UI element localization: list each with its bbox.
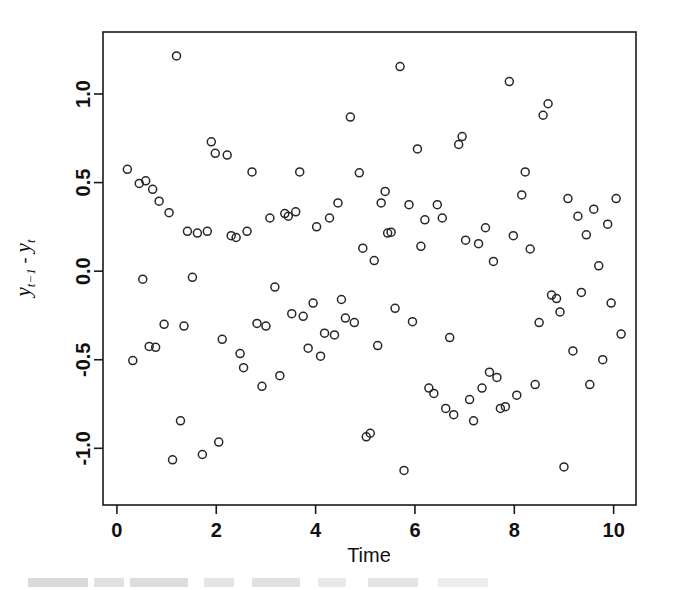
y-axis-title: yt−1-yt	[11, 239, 38, 299]
y-tick-label: -1.0	[72, 431, 94, 465]
data-point	[227, 232, 235, 240]
data-point	[544, 100, 552, 108]
data-point	[359, 244, 367, 252]
data-point	[374, 342, 382, 350]
y-tick-label: 0.5	[72, 169, 94, 197]
x-tick-label: 4	[310, 519, 322, 541]
data-point	[421, 216, 429, 224]
data-point	[317, 352, 325, 360]
y-tick-label: 1.0	[72, 80, 94, 108]
data-point	[405, 201, 413, 209]
data-point	[326, 214, 334, 222]
data-point-group	[123, 52, 625, 475]
data-point	[569, 347, 577, 355]
data-point	[564, 195, 572, 203]
data-point	[505, 78, 513, 86]
data-point	[211, 149, 219, 157]
svg-text:yt−1-yt: yt−1-yt	[11, 239, 38, 299]
data-point	[582, 231, 590, 239]
data-point	[408, 318, 416, 326]
data-point	[617, 330, 625, 338]
data-point	[391, 304, 399, 312]
x-tick-label: 10	[603, 519, 625, 541]
data-point	[188, 273, 196, 281]
data-point	[160, 320, 168, 328]
data-point	[518, 191, 526, 199]
x-tick-label: 6	[409, 519, 420, 541]
data-point	[232, 234, 240, 242]
data-point	[123, 165, 131, 173]
data-point	[535, 319, 543, 327]
data-point	[288, 310, 296, 318]
data-point	[595, 262, 603, 270]
data-point	[350, 319, 358, 327]
data-point	[218, 335, 226, 343]
data-point	[446, 334, 454, 342]
data-point	[149, 185, 157, 193]
data-point	[493, 373, 501, 381]
data-point	[513, 391, 521, 399]
data-point	[450, 411, 458, 419]
data-point	[243, 227, 251, 235]
data-point	[258, 382, 266, 390]
data-point	[266, 214, 274, 222]
data-point	[458, 133, 466, 141]
data-point	[176, 417, 184, 425]
data-point	[248, 168, 256, 176]
data-point	[215, 438, 223, 446]
data-point	[607, 299, 615, 307]
data-point	[180, 322, 188, 330]
y-tick-label-group: 0.5	[72, 169, 94, 197]
data-point	[381, 187, 389, 195]
data-point	[574, 212, 582, 220]
data-point	[413, 145, 421, 153]
data-point	[501, 403, 509, 411]
data-point	[173, 52, 181, 60]
data-point	[292, 208, 300, 216]
figure-caption-partial	[28, 578, 508, 587]
data-point	[489, 257, 497, 265]
data-point	[321, 329, 329, 337]
data-point	[430, 389, 438, 397]
data-point	[271, 283, 279, 291]
x-tick-label: 2	[211, 519, 222, 541]
data-point	[526, 245, 534, 253]
data-point	[586, 381, 594, 389]
data-point	[129, 357, 137, 365]
y-tick-label-group: -1.0	[72, 431, 94, 465]
data-point	[612, 195, 620, 203]
data-point	[330, 331, 338, 339]
data-point	[183, 227, 191, 235]
y-axis-title-operator: -	[14, 257, 34, 263]
data-point	[262, 322, 270, 330]
data-point	[207, 138, 215, 146]
x-tick-label: 8	[509, 519, 520, 541]
data-point	[556, 308, 564, 316]
data-point	[400, 466, 408, 474]
data-point	[470, 417, 478, 425]
data-point	[475, 240, 483, 248]
data-point	[531, 381, 539, 389]
y-tick-label-group: 0.0	[72, 257, 94, 285]
data-point	[139, 275, 147, 283]
scatter-plot: 0246810 -1.0-0.50.00.51.0 Time yt−1-yt	[0, 0, 679, 590]
data-point	[539, 111, 547, 119]
data-point	[438, 214, 446, 222]
data-point	[599, 356, 607, 364]
data-point	[478, 384, 486, 392]
data-point	[313, 223, 321, 231]
data-point	[370, 257, 378, 265]
data-point	[442, 404, 450, 412]
data-point	[299, 312, 307, 320]
data-point	[590, 205, 598, 213]
data-point	[485, 368, 493, 376]
data-point	[296, 168, 304, 176]
data-point	[193, 229, 201, 237]
x-tick-label: 0	[111, 519, 122, 541]
data-point	[346, 113, 354, 121]
data-point	[304, 344, 312, 352]
data-point	[396, 63, 404, 71]
data-point	[496, 404, 504, 412]
y-axis-title-sub1: t−1	[23, 268, 38, 287]
data-point	[462, 236, 470, 244]
